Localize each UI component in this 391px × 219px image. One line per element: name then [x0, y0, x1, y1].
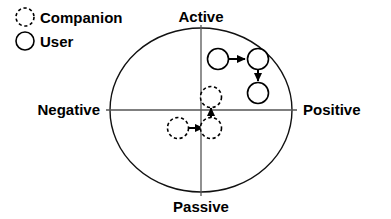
legend: Companion User: [16, 8, 123, 50]
circumplex-diagram: Active Passive Negative Positive Compani…: [0, 0, 391, 219]
legend-label-user: User: [40, 33, 74, 50]
user-node-3[interactable]: [248, 83, 269, 104]
legend-item-companion[interactable]: Companion: [16, 8, 123, 26]
axis-label-active: Active: [178, 8, 223, 25]
user-node-2[interactable]: [248, 49, 269, 70]
companion-node-3[interactable]: [201, 87, 222, 108]
affect-circumplex-figure: Active Passive Negative Positive Compani…: [0, 0, 391, 219]
legend-label-companion: Companion: [40, 9, 123, 26]
user-node-1[interactable]: [208, 49, 229, 70]
companion-node-2[interactable]: [201, 118, 222, 139]
dashed-circle-icon: [16, 8, 34, 26]
solid-circle-icon: [16, 32, 34, 50]
axis-label-positive: Positive: [303, 101, 361, 118]
axis-label-negative: Negative: [37, 101, 100, 118]
companion-node-1[interactable]: [168, 118, 189, 139]
legend-item-user[interactable]: User: [16, 32, 74, 50]
axis-label-passive: Passive: [173, 198, 229, 215]
